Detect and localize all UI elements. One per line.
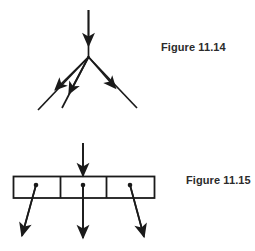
figure-11-14-graphic: [38, 10, 137, 110]
pointer-arrowhead-cell-1: [24, 185, 37, 230]
figure-11-15-caption: Figure 11.15: [186, 174, 251, 186]
figures-drawing: [0, 0, 255, 251]
outgoing-branch-1-arrowhead-1114: [59, 57, 89, 86]
figure-11-15-graphic: [14, 143, 155, 238]
pointer-arrowhead-cell-3: [130, 185, 143, 231]
outgoing-branch-3-arrowhead-1114: [89, 57, 113, 84]
figure-11-14-caption: Figure 11.14: [161, 41, 226, 53]
figure-page: Figure 11.14 Figure 11.15: [0, 0, 255, 251]
